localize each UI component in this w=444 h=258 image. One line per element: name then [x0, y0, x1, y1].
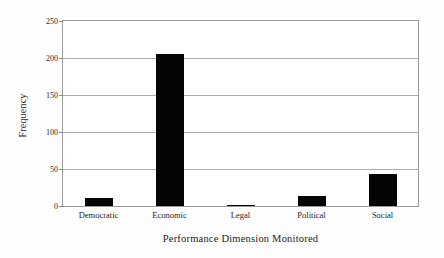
bar-democratic — [85, 198, 113, 206]
x-axis-title: Performance Dimension Monitored — [62, 233, 419, 244]
plot-area: 050100150200250DemocraticEconomicLegalPo… — [62, 20, 419, 207]
x-tick-label-economic: Economic — [152, 210, 186, 220]
y-tick-label: 50 — [29, 165, 63, 174]
bar-economic — [156, 54, 184, 206]
gridline — [63, 95, 418, 96]
y-axis-title-label: Frequency — [17, 93, 28, 137]
bar-political — [298, 196, 326, 206]
y-tick-label: 200 — [29, 54, 63, 63]
bar-chart-figure: Frequency 050100150200250DemocraticEcono… — [0, 0, 444, 258]
gridline — [63, 58, 418, 59]
gridline — [63, 132, 418, 133]
y-tick-label: 250 — [29, 17, 63, 26]
bar-social — [369, 174, 397, 206]
x-tick-label-democratic: Democratic — [79, 210, 119, 220]
y-axis-title: Frequency — [14, 60, 30, 170]
gridline — [63, 169, 418, 170]
y-tick-label: 100 — [29, 128, 63, 137]
x-tick-label-legal: Legal — [231, 210, 250, 220]
bar-legal — [227, 205, 255, 207]
x-tick-label-social: Social — [372, 210, 393, 220]
y-tick-label: 0 — [29, 202, 63, 211]
y-tick-label: 150 — [29, 91, 63, 100]
x-tick-label-political: Political — [297, 210, 325, 220]
